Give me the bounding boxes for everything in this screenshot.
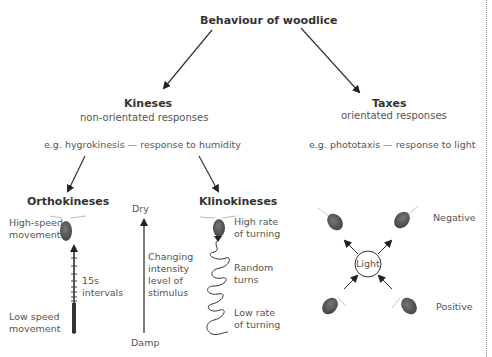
diagram-title: Behaviour of woodlice <box>200 14 338 27</box>
arrow-to-orthokineses <box>68 156 85 191</box>
positive-label: Positive <box>436 301 473 313</box>
arrow-to-klinokineses <box>199 156 218 191</box>
orthokineses-heading: Orthokineses <box>27 195 109 208</box>
woodlouse-icon <box>318 208 346 233</box>
woodlouse-icon <box>392 295 420 318</box>
kineses-subtitle: non-orientated responses <box>80 112 208 123</box>
woodlouse-icon <box>200 216 236 237</box>
stimulus-bottom-label: Damp <box>131 337 159 349</box>
negative-label: Negative <box>433 212 476 224</box>
kineses-heading: Kineses <box>124 97 172 110</box>
klinokineses-heading: Klinokineses <box>199 195 277 208</box>
stimulus-top-label: Dry <box>132 203 149 215</box>
page-divider <box>486 0 487 357</box>
taxes-heading: Taxes <box>372 97 407 110</box>
orthokineses-interval-label: 15s intervals <box>82 275 132 299</box>
woodlouse-icon <box>319 295 346 318</box>
light-label: Light <box>356 258 380 270</box>
taxes-example: e.g. phototaxis — response to light <box>309 139 475 150</box>
arrow-to-kineses <box>164 30 212 88</box>
movement-track <box>71 246 77 334</box>
orthokineses-bottom-label: Low speed movement <box>9 311 69 335</box>
random-turns-path <box>207 236 229 335</box>
woodlouse-icon <box>391 206 418 231</box>
diagram-graphics <box>0 0 492 357</box>
taxes-subtitle: orientated responses <box>341 110 447 121</box>
kineses-example: e.g. hygrokinesis — response to humidity <box>44 139 241 150</box>
arrow-to-taxes <box>301 28 359 92</box>
klinokineses-middle-label: Random turns <box>234 262 284 286</box>
orthokineses-top-label: High-speed movement <box>9 217 69 241</box>
klinokineses-bottom-label: Low rate of turning <box>234 307 284 331</box>
stimulus-middle-label: Changing intensity level of stimulus <box>148 251 198 299</box>
klinokineses-top-label: High rate of turning <box>234 216 284 240</box>
